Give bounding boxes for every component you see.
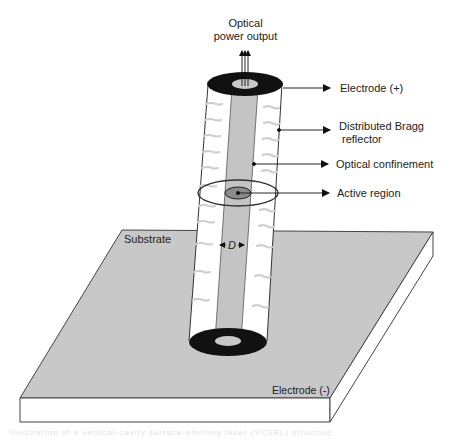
substrate-front-face	[20, 398, 330, 422]
label-optical-output-line1: Optical	[198, 17, 293, 30]
vcsel-diagram	[0, 0, 455, 442]
label-distributed-bragg-reflector: Distributed Bragg reflector	[339, 120, 424, 146]
label-substrate: Substrate	[124, 233, 171, 246]
label-active-region: Active region	[337, 187, 401, 200]
label-electrode-minus: Electrode (-)	[272, 384, 330, 397]
label-electrode-plus: Electrode (+)	[340, 82, 403, 95]
label-optical-confinement: Optical confinement	[336, 158, 433, 171]
bottom-aperture	[215, 336, 241, 346]
label-dbr-line1: Distributed Bragg	[339, 120, 424, 133]
label-optical-output-line2: power output	[198, 30, 293, 43]
vcsel-pillar	[189, 72, 283, 356]
label-diameter: D	[228, 239, 236, 252]
figure-caption: Illustration of a vertical-cavity surfac…	[10, 428, 333, 437]
label-dbr-line2: reflector	[339, 133, 424, 146]
label-optical-power-output: Optical power output	[198, 17, 293, 43]
